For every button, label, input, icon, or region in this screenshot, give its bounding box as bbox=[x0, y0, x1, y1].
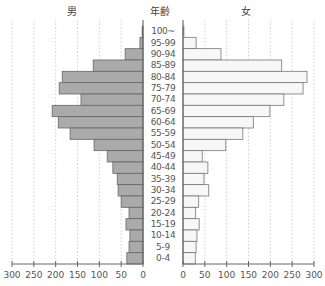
age-label: 85-89 bbox=[143, 60, 183, 71]
age-label: 30-34 bbox=[143, 185, 183, 196]
female-bar bbox=[183, 94, 284, 105]
male-bar bbox=[93, 60, 143, 71]
age-label: 25-29 bbox=[143, 196, 183, 207]
male-bar bbox=[62, 71, 143, 82]
male-bar bbox=[58, 117, 143, 128]
female-bar bbox=[183, 241, 196, 252]
female-bar bbox=[183, 219, 199, 230]
female-bar bbox=[183, 151, 202, 162]
female-bar bbox=[183, 196, 199, 207]
age-label: 15-19 bbox=[143, 219, 183, 230]
age-label: 5-9 bbox=[143, 242, 183, 253]
male-bar bbox=[113, 162, 143, 173]
age-label: 40-44 bbox=[143, 162, 183, 173]
female-bar bbox=[183, 49, 221, 60]
age-label: 100~ bbox=[143, 26, 183, 37]
age-label: 20-24 bbox=[143, 208, 183, 219]
male-bar bbox=[121, 196, 143, 207]
age-label: 55-59 bbox=[143, 128, 183, 139]
male-bar bbox=[130, 230, 143, 241]
age-label: 0-4 bbox=[143, 253, 183, 264]
female-bar bbox=[183, 185, 209, 196]
age-label: 65-69 bbox=[143, 106, 183, 117]
female-bar bbox=[183, 173, 204, 184]
male-bar bbox=[126, 219, 143, 230]
age-label: 60-64 bbox=[143, 117, 183, 128]
x-tick-label: 300 bbox=[0, 270, 27, 280]
age-label: 95-99 bbox=[143, 38, 183, 49]
age-label: 80-84 bbox=[143, 72, 183, 83]
female-bar bbox=[183, 139, 226, 150]
male-bar bbox=[118, 185, 143, 196]
age-label: 75-79 bbox=[143, 83, 183, 94]
age-label: 45-49 bbox=[143, 151, 183, 162]
female-bar bbox=[183, 60, 282, 71]
x-tick-label: 300 bbox=[299, 270, 325, 280]
age-label: 10-14 bbox=[143, 230, 183, 241]
male-bar bbox=[94, 139, 143, 150]
male-bar bbox=[129, 207, 143, 218]
male-bar bbox=[117, 173, 143, 184]
female-bar bbox=[183, 253, 195, 264]
male-bar bbox=[127, 253, 143, 264]
male-bar bbox=[52, 105, 143, 116]
female-bar bbox=[183, 162, 208, 173]
female-bar bbox=[183, 207, 196, 218]
female-bar bbox=[183, 128, 243, 139]
age-label: 50-54 bbox=[143, 140, 183, 151]
male-bar bbox=[81, 94, 143, 105]
female-bar bbox=[183, 117, 253, 128]
female-bar bbox=[183, 83, 303, 94]
male-bar bbox=[129, 241, 143, 252]
male-bar bbox=[70, 128, 143, 139]
male-bar bbox=[125, 49, 143, 60]
age-label: 90-94 bbox=[143, 49, 183, 60]
age-label: 35-39 bbox=[143, 174, 183, 185]
female-bar bbox=[183, 71, 307, 82]
female-bar bbox=[183, 230, 197, 241]
male-bar bbox=[107, 151, 143, 162]
male-bar bbox=[59, 83, 143, 94]
female-bar bbox=[183, 105, 270, 116]
female-bar bbox=[183, 37, 196, 48]
age-label: 70-74 bbox=[143, 94, 183, 105]
